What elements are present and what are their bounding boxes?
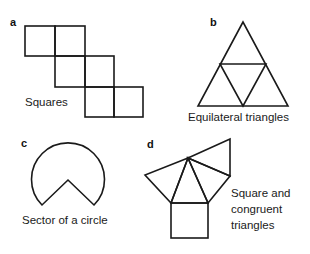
panel-b: b Equilateral triangles: [188, 16, 289, 123]
base-square: [171, 203, 208, 238]
panel-c: c Sector of a circle: [21, 137, 108, 226]
panel-label-b: b: [210, 16, 217, 28]
panel-label-d: d: [147, 138, 154, 150]
caption-b: Equilateral triangles: [188, 111, 289, 123]
square-5: [85, 87, 114, 117]
square-6: [114, 87, 143, 117]
figure-canvas: a Squares b Equilateral triangles c: [0, 0, 310, 254]
panel-label-c: c: [21, 137, 27, 149]
equilateral-triangles: [198, 22, 288, 106]
panel-d: d Square and congruent triangles: [145, 138, 290, 238]
circle-sector: [32, 143, 105, 205]
caption-a: Squares: [25, 96, 68, 108]
caption-d-line-3: triangles: [231, 219, 275, 231]
square-4: [85, 56, 114, 87]
square-1: [25, 26, 55, 56]
panel-label-a: a: [10, 16, 17, 28]
caption-d-line-1: Square and: [231, 187, 290, 199]
caption-c: Sector of a circle: [22, 214, 108, 226]
square-2: [55, 26, 85, 56]
figure: a Squares b Equilateral triangles c: [0, 0, 310, 254]
panel-a: a Squares: [10, 16, 143, 117]
left-triangle: [145, 158, 188, 203]
square-and-triangles: [145, 139, 230, 238]
square-3: [55, 56, 85, 87]
inner-triangle: [220, 64, 266, 106]
caption-d-line-2: congruent: [231, 203, 283, 215]
right-triangle: [188, 158, 230, 203]
